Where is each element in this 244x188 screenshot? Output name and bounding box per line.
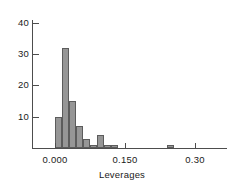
x-axis-tick-mark [55,143,56,149]
histogram-figure: 40302010 0.0000.1500.30 Leverages [0,0,244,188]
y-axis-tick-label: 40 [7,18,29,28]
histogram-bar [104,145,111,148]
y-axis-tick-mark [33,54,39,55]
x-axis-tick-label: 0.30 [165,155,225,165]
histogram-bar [111,145,118,148]
x-axis-tick-mark [195,143,196,149]
y-axis-tick-mark [33,85,39,86]
histogram-bar [83,139,90,148]
x-axis-title: Leverages [0,170,244,180]
histogram-bar [76,126,83,148]
histogram-bar [167,145,174,148]
x-axis-tick-label: 0.150 [95,155,155,165]
plot-area: 40302010 0.0000.1500.30 Leverages [0,0,244,188]
histogram-bar [55,117,62,148]
y-axis-tick-mark [33,23,39,24]
histogram-bar [69,101,76,148]
histogram-bar [90,145,97,148]
x-axis-line [32,148,227,149]
y-axis-tick-label: 20 [7,80,29,90]
histogram-bar [97,135,104,148]
x-axis-tick-label: 0.000 [25,155,85,165]
y-axis-tick-label: 30 [7,49,29,59]
y-axis-tick-mark [33,117,39,118]
y-axis-tick-label: 10 [7,112,29,122]
x-axis-tick-mark [125,143,126,149]
histogram-bar [62,48,69,148]
